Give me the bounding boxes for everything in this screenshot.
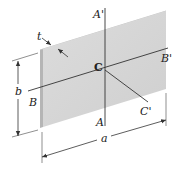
plate-side-edge bbox=[40, 49, 43, 128]
label-centroid: C bbox=[94, 61, 103, 74]
label-b: B bbox=[28, 96, 37, 109]
plate-diagram: A' A B' B C C' t b a bbox=[0, 0, 185, 171]
label-a: A bbox=[95, 116, 104, 129]
label-thickness: t bbox=[37, 30, 42, 43]
label-b-prime: B' bbox=[160, 52, 172, 65]
label-height: b bbox=[15, 85, 22, 98]
label-a-prime: A' bbox=[92, 8, 104, 21]
label-c-prime: C' bbox=[140, 105, 151, 118]
label-width: a bbox=[101, 132, 108, 145]
